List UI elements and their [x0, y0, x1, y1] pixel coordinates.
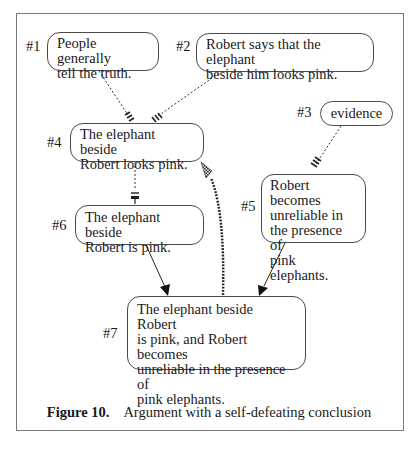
- node-7-conclusion: The elephant beside Robert is pink, and …: [127, 296, 306, 370]
- node-label-1: #1: [26, 38, 41, 55]
- node-6-claim: The elephant beside Robert is pink.: [75, 205, 204, 245]
- node-1-premise: People generally tell the truth.: [47, 32, 159, 71]
- node-label-3: #3: [297, 104, 312, 121]
- figure-caption: Figure 10.Argument with a self-defeating…: [0, 404, 418, 421]
- node-label-5: #5: [241, 198, 256, 215]
- caption-label: Figure 10.: [47, 404, 110, 420]
- edge-3-to-5: [311, 126, 341, 167]
- node-4-conclusion: The elephant beside Robert looks pink.: [70, 123, 204, 162]
- node-label-6: #6: [52, 217, 67, 234]
- node-label-2: #2: [176, 38, 191, 55]
- caption-text: Argument with a self-defeating conclusio…: [123, 404, 371, 420]
- edge-7-to-4: [201, 162, 223, 295]
- node-2-premise: Robert says that the elephant beside him…: [196, 33, 374, 72]
- node-label-4: #4: [47, 134, 62, 151]
- node-3-evidence: evidence: [320, 101, 393, 126]
- node-label-7: #7: [103, 325, 118, 342]
- node-5-claim: Robert becomes unreliable in the presenc…: [261, 174, 366, 243]
